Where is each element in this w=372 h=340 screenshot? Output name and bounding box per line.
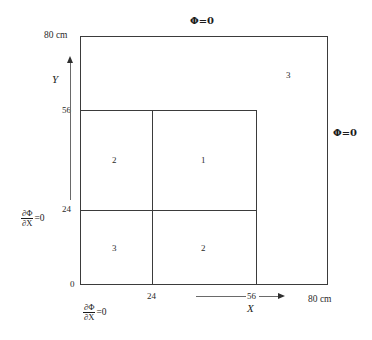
x-tick-80cm: 80 cm (308, 295, 331, 305)
bc-top-phi: Φ=0 (190, 16, 214, 26)
bc-bottom-neumann: ∂Φ ∂X =0 (83, 303, 107, 322)
bc-right-phi: Φ=0 (333, 128, 357, 138)
inner-block-rect (80, 110, 257, 285)
x-tick-24: 24 (147, 292, 156, 301)
y-tick-24: 24 (62, 205, 71, 214)
bc-left-equals: =0 (34, 214, 44, 224)
region-label-upper-right-1: 1 (201, 155, 206, 165)
region-label-lower-right-2: 2 (201, 243, 206, 253)
figure-canvas: Φ=0 Φ=0 ∂Φ ∂X =0 ∂Φ ∂X =0 80 cm 56 24 0 … (0, 0, 372, 340)
divider-x24 (152, 110, 153, 285)
x-axis-arrow-head (278, 293, 285, 299)
bc-bottom-equals: =0 (96, 308, 106, 318)
bc-bottom-fraction: ∂Φ ∂X (83, 303, 95, 322)
y-tick-0: 0 (70, 280, 75, 289)
y-axis-arrow-head (67, 56, 73, 63)
region-label-upper-left-2: 2 (112, 155, 117, 165)
divider-y24 (80, 210, 257, 211)
y-axis-label: Y (52, 74, 58, 85)
x-axis-label: X (247, 303, 254, 314)
y-axis-arrow-shaft (70, 63, 71, 200)
bc-left-fraction: ∂Φ ∂X (21, 209, 33, 228)
bc-bottom-denominator: ∂X (83, 313, 95, 322)
region-label-outer-3: 3 (286, 70, 291, 80)
region-label-lower-left-3: 3 (112, 243, 117, 253)
x-axis-arrow-shaft (196, 296, 246, 297)
bc-right-label: Φ=0 (333, 127, 357, 138)
bc-left-denominator: ∂X (21, 219, 33, 228)
bc-left-neumann: ∂Φ ∂X =0 (21, 209, 45, 228)
x-tick-56: 56 (247, 292, 256, 301)
bc-top-label: Φ=0 (190, 15, 214, 26)
y-tick-80cm: 80 cm (44, 31, 67, 41)
x-axis-arrow-shaft-2 (259, 296, 279, 297)
